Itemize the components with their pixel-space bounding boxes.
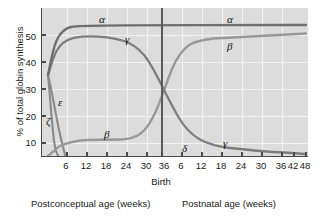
x-axis-tick-labels: 6 12 18 24 30 36 6 12 18 24 30 36 42 48 — [0, 160, 325, 172]
annotation-alpha-left: α — [99, 14, 105, 25]
y-axis-tick-labels: 50 40 30 20 10 — [14, 0, 36, 219]
x-tick-left-12: 12 — [75, 160, 97, 171]
curves-svg — [42, 8, 308, 156]
annotation-beta-right: β — [227, 41, 232, 52]
y-tick-10: 10 — [18, 138, 36, 148]
annotation-delta: δ — [182, 143, 187, 154]
y-tick-30: 30 — [18, 85, 36, 95]
annotation-zeta: ζ — [46, 116, 50, 127]
x-axis-caption-right: Postnatal age (weeks) — [182, 198, 276, 209]
gridlines — [42, 8, 308, 156]
annotation-gamma-right: γ — [223, 138, 227, 149]
x-tick-right-18: 18 — [210, 160, 232, 171]
y-tick-20: 20 — [18, 112, 36, 122]
annotation-alpha-right: α — [227, 14, 233, 25]
x-tick-right-12: 12 — [190, 160, 212, 171]
annotation-beta-left: β — [104, 129, 109, 140]
x-tick-right-30: 30 — [250, 160, 272, 171]
x-tick-right-48: 48 — [294, 160, 316, 171]
x-tick-left-24: 24 — [115, 160, 137, 171]
y-tick-50: 50 — [18, 32, 36, 42]
birth-axis-label: Birth — [131, 176, 191, 187]
y-tick-40: 40 — [18, 58, 36, 68]
x-axis-caption-left: Postconceptual age (weeks) — [31, 198, 150, 209]
plot-area: α α γ γ β β ε ζ δ — [41, 8, 308, 157]
annotation-gamma-left: γ — [125, 34, 129, 45]
x-tick-left-6: 6 — [55, 160, 77, 171]
annotation-epsilon: ε — [58, 97, 62, 108]
x-tick-left-18: 18 — [95, 160, 117, 171]
x-tick-right-24: 24 — [230, 160, 252, 171]
x-tick-right-6: 6 — [170, 160, 192, 171]
globin-synthesis-chart: % of total globin synthesis 50 40 30 20 … — [0, 0, 325, 219]
